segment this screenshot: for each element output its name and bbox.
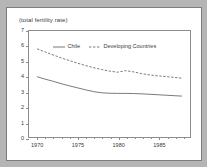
x-axis-tick-label: 1985: [153, 143, 165, 149]
x-axis-tick: [143, 137, 144, 139]
y-axis-tick: [26, 31, 29, 32]
x-axis-tick-label: 1975: [72, 143, 84, 149]
y-axis-tick-label: 0: [21, 136, 24, 142]
x-axis-tick: [127, 137, 128, 139]
figure-root: (total fertility rate) ChileDeveloping C…: [0, 0, 207, 167]
y-axis-tick: [26, 124, 29, 125]
y-axis-tick: [26, 139, 29, 140]
y-axis-tick: [26, 46, 29, 47]
plot-frame: 012345671970197519801985: [28, 30, 191, 138]
y-axis-tick-label: 4: [21, 75, 24, 81]
chart-paper: (total fertility rate) ChileDeveloping C…: [6, 7, 202, 161]
x-axis-tick: [94, 137, 95, 139]
x-axis-tick: [168, 137, 169, 139]
y-axis-tick-label: 1: [21, 121, 24, 127]
y-axis-tick-label: 5: [21, 59, 24, 65]
x-axis-tick: [176, 137, 177, 139]
x-axis-tick: [53, 137, 54, 139]
x-axis-tick: [70, 137, 71, 139]
series-line-developing-countries: [37, 49, 182, 78]
x-axis-tick: [119, 137, 120, 140]
x-axis-tick: [102, 137, 103, 139]
y-axis-tick: [26, 93, 29, 94]
x-axis-tick: [86, 137, 87, 139]
y-axis-tick: [26, 62, 29, 63]
x-axis-tick: [159, 137, 160, 140]
x-axis-tick: [111, 137, 112, 139]
series-layer: [29, 31, 190, 137]
x-axis-tick: [184, 137, 185, 139]
plot-inner: [29, 31, 190, 137]
x-axis-tick: [37, 137, 38, 140]
x-axis-tick: [45, 137, 46, 139]
x-axis-tick: [151, 137, 152, 139]
y-axis-tick-label: 7: [21, 28, 24, 34]
y-axis-tick: [26, 108, 29, 109]
y-axis-tick: [26, 77, 29, 78]
chart-title: (total fertility rate): [19, 17, 68, 23]
x-axis-tick: [78, 137, 79, 140]
x-axis-tick: [62, 137, 63, 139]
series-line-chile: [37, 77, 182, 96]
y-axis-tick-label: 2: [21, 105, 24, 111]
y-axis-tick-label: 6: [21, 44, 24, 50]
x-axis-tick-label: 1980: [113, 143, 125, 149]
x-axis-tick-label: 1970: [31, 143, 43, 149]
x-axis-tick: [135, 137, 136, 139]
y-axis-tick-label: 3: [21, 90, 24, 96]
